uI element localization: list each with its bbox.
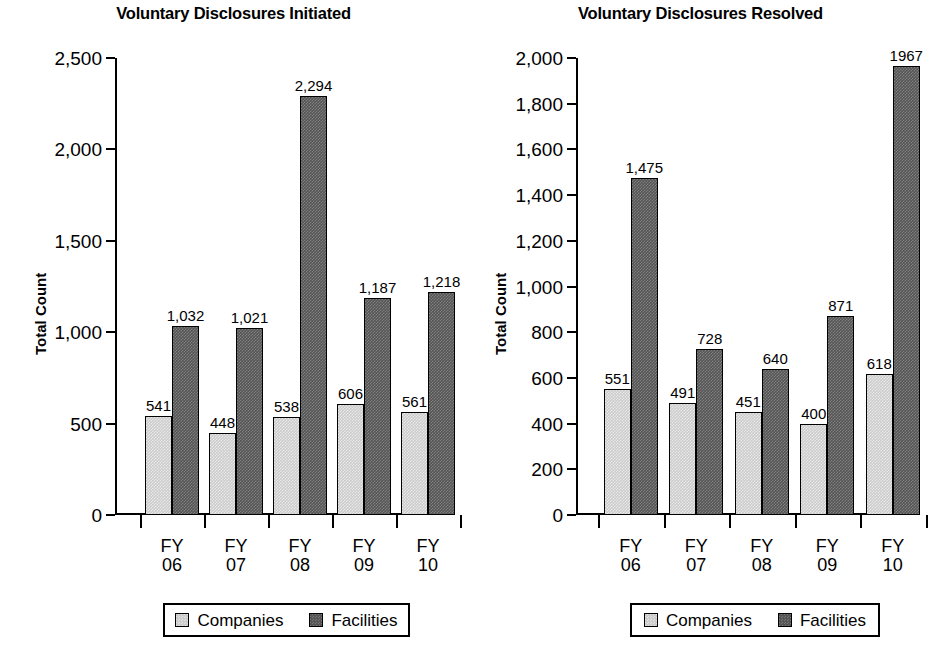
legend-swatch-facilities-icon (309, 613, 323, 627)
bar-value-label: 561 (402, 394, 427, 409)
legend-label-facilities: Facilities (331, 612, 397, 629)
bar-value-label: 618 (867, 356, 892, 371)
bar-value-label: 640 (763, 351, 788, 366)
bar-companies-fy-09 (337, 404, 364, 515)
y-axis-tick (106, 514, 115, 516)
y-axis-tick (106, 57, 115, 59)
x-axis-category-label: FY10 (416, 537, 439, 575)
bar-value-label: 871 (828, 298, 853, 313)
y-axis-tick (106, 148, 115, 150)
bar-facilities-fy-09 (364, 298, 391, 515)
legend-label-companies: Companies (666, 612, 752, 629)
x-axis-category-label: FY08 (750, 537, 773, 575)
y-axis-tick (567, 514, 576, 516)
legend-swatch-companies-icon (644, 613, 658, 627)
legend-item-companies: Companies (644, 612, 752, 629)
y-axis-tick-label: 2,500 (54, 49, 102, 68)
y-axis-tick-label: 800 (531, 323, 563, 342)
bar-value-label: 451 (736, 394, 761, 409)
x-axis-category-label: FY06 (160, 537, 183, 575)
y-axis-tick-label: 2,000 (515, 49, 563, 68)
bar-value-label: 538 (274, 399, 299, 414)
y-axis-tick-label: 0 (91, 506, 102, 525)
y-axis-tick-label: 600 (531, 368, 563, 387)
y-axis-label: Total Count (492, 273, 509, 355)
x-axis-tick (926, 515, 928, 528)
bar-value-label: 541 (146, 398, 171, 413)
bar-value-label: 491 (670, 385, 695, 400)
x-axis-category-label: FY07 (224, 537, 247, 575)
bar-companies-fy-07 (209, 433, 236, 515)
chart-title: Voluntary Disclosures Initiated (0, 4, 467, 23)
x-axis-tick (204, 515, 206, 528)
x-axis-category-label: FY08 (288, 537, 311, 575)
x-axis-tick (460, 515, 462, 528)
bar-value-label: 1,021 (231, 310, 269, 325)
x-axis-tick (268, 515, 270, 528)
y-axis-tick (106, 240, 115, 242)
y-axis-tick-label: 1,600 (515, 140, 563, 159)
y-axis-tick (567, 148, 576, 150)
y-axis-tick (567, 331, 576, 333)
y-axis-tick (567, 468, 576, 470)
bar-facilities-fy-07 (236, 328, 263, 515)
x-axis-category-label: FY10 (881, 537, 904, 575)
bar-facilities-fy-10 (428, 292, 455, 515)
y-axis-tick (567, 57, 576, 59)
y-axis-label: Total Count (32, 273, 49, 355)
bar-companies-fy-10 (866, 374, 893, 515)
chart-legend: Companies Facilities (630, 603, 880, 637)
bar-value-label: 2,294 (295, 78, 333, 93)
chart-title: Voluntary Disclosures Resolved (467, 4, 934, 23)
bar-value-label: 551 (605, 371, 630, 386)
x-axis-category-label: FY09 (352, 537, 375, 575)
y-axis-tick-label: 1,500 (54, 231, 102, 250)
bar-value-label: 606 (338, 386, 363, 401)
x-axis-tick (332, 515, 334, 528)
y-axis-tick (567, 103, 576, 105)
bar-value-label: 400 (801, 406, 826, 421)
legend-item-companies: Companies (175, 612, 283, 629)
y-axis-tick-label: 1,000 (515, 277, 563, 296)
bar-value-label: 1,218 (423, 274, 461, 289)
x-axis-tick (795, 515, 797, 528)
bar-companies-fy-06 (604, 389, 631, 515)
y-axis-line (115, 58, 117, 515)
legend-item-facilities: Facilities (309, 612, 397, 629)
y-axis-tick (567, 240, 576, 242)
legend-item-facilities: Facilities (778, 612, 866, 629)
bar-facilities-fy-07 (696, 349, 723, 515)
y-axis-tick (567, 286, 576, 288)
legend-swatch-facilities-icon (778, 613, 792, 627)
bar-facilities-fy-08 (762, 369, 789, 515)
bar-companies-fy-07 (669, 403, 696, 515)
bar-value-label: 1,475 (625, 160, 663, 175)
bar-value-label: 1,187 (359, 280, 397, 295)
bar-value-label: 728 (697, 331, 722, 346)
x-axis-tick (664, 515, 666, 528)
x-axis-tick (396, 515, 398, 528)
bar-value-label: 448 (210, 415, 235, 430)
y-axis-tick (567, 423, 576, 425)
x-axis-category-label: FY07 (685, 537, 708, 575)
x-axis-tick (860, 515, 862, 528)
bar-companies-fy-10 (401, 412, 428, 515)
bar-facilities-fy-08 (300, 96, 327, 515)
y-axis-tick-label: 1,400 (515, 186, 563, 205)
plot-area: 05001,0001,5002,0002,5005411,032FY064481… (115, 58, 445, 515)
bar-value-label: 1,032 (167, 308, 205, 323)
y-axis-tick (567, 377, 576, 379)
y-axis-tick-label: 500 (70, 414, 102, 433)
y-axis-line (576, 58, 578, 515)
y-axis-tick-label: 1,800 (515, 94, 563, 113)
y-axis-tick-label: 1,000 (54, 323, 102, 342)
bar-companies-fy-08 (735, 412, 762, 515)
bar-facilities-fy-06 (172, 326, 199, 515)
bar-value-label: 1967 (890, 48, 923, 63)
bar-companies-fy-09 (800, 424, 827, 515)
legend-swatch-companies-icon (175, 613, 189, 627)
bar-companies-fy-08 (273, 417, 300, 515)
legend-label-companies: Companies (197, 612, 283, 629)
y-axis-tick (567, 194, 576, 196)
x-axis-tick (729, 515, 731, 528)
